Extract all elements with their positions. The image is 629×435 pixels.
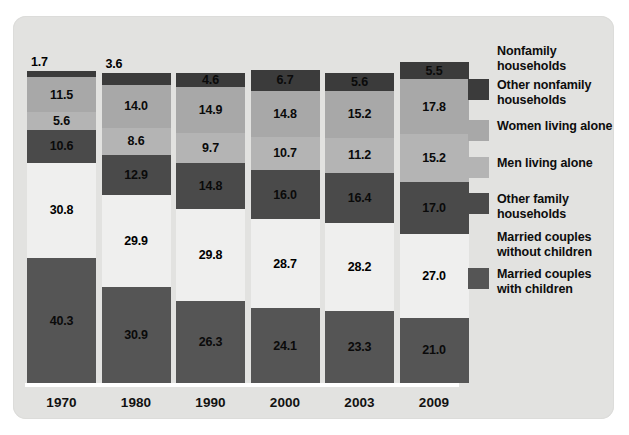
segment-value-label: 16.4 bbox=[325, 192, 394, 205]
bar-segment[interactable]: 23.3 bbox=[325, 311, 394, 383]
segment-value-label: 21.0 bbox=[400, 344, 469, 357]
segment-value-label: 14.0 bbox=[102, 100, 171, 113]
segment-value-label: 5.6 bbox=[27, 115, 96, 128]
bar-segment[interactable]: 29.8 bbox=[176, 209, 245, 301]
bar-segment[interactable]: 21.0 bbox=[400, 318, 469, 383]
bar-segment[interactable]: 29.9 bbox=[102, 195, 171, 288]
bar-segment[interactable]: 17.0 bbox=[400, 182, 469, 235]
chart-legend: Nonfamily householdsOther nonfamily hous… bbox=[468, 16, 614, 419]
segment-value-label: 10.6 bbox=[27, 140, 96, 153]
x-axis-tick-label: 1980 bbox=[102, 395, 171, 410]
segment-value-label: 5.5 bbox=[400, 64, 469, 77]
bar-segment[interactable]: 16.4 bbox=[325, 173, 394, 224]
legend-item[interactable]: Other family households bbox=[468, 192, 614, 222]
legend-item-label: Women living alone bbox=[497, 119, 612, 134]
bar-column[interactable]: 5.615.211.216.428.223.3 bbox=[325, 16, 394, 419]
bar-segment[interactable]: 5.5 bbox=[400, 62, 469, 79]
bar-segment[interactable]: 15.2 bbox=[400, 134, 469, 181]
bar-segment[interactable]: 8.6 bbox=[102, 128, 171, 155]
legend-item[interactable]: Women living alone bbox=[468, 119, 614, 141]
bar-segment[interactable]: 14.8 bbox=[176, 163, 245, 209]
segment-value-label: 26.3 bbox=[176, 336, 245, 349]
bar-stack: 6.714.810.716.028.724.1 bbox=[251, 70, 320, 383]
legend-item-label: Men living alone bbox=[497, 156, 593, 171]
segment-value-label: 6.7 bbox=[251, 74, 320, 87]
bar-column[interactable]: 4.614.99.714.829.826.3 bbox=[176, 16, 245, 419]
segment-value-label: 17.0 bbox=[400, 202, 469, 215]
legend-item-label: Other nonfamily households bbox=[497, 78, 591, 108]
legend-swatch-placeholder bbox=[468, 231, 489, 252]
bar-segment[interactable]: 28.7 bbox=[251, 219, 320, 308]
bar-segment[interactable]: 24.1 bbox=[251, 308, 320, 383]
segment-value-label: 30.8 bbox=[27, 204, 96, 217]
bar-column[interactable]: 1.711.55.610.630.840.3 bbox=[27, 16, 96, 419]
segment-value-label: 40.3 bbox=[27, 314, 96, 327]
segment-value-label: 16.0 bbox=[251, 188, 320, 201]
bar-segment[interactable]: 17.8 bbox=[400, 79, 469, 134]
legend-item[interactable]: Married couples with children bbox=[468, 267, 614, 297]
bar-stack: 3.614.08.612.929.930.9 bbox=[102, 73, 171, 383]
legend-item-label: Nonfamily households bbox=[497, 44, 566, 74]
x-axis-tick-label: 2000 bbox=[251, 395, 320, 410]
bar-segment[interactable]: 10.6 bbox=[27, 130, 96, 163]
segment-value-label: 9.7 bbox=[176, 142, 245, 155]
segment-value-label: 27.0 bbox=[400, 270, 469, 283]
bar-segment[interactable]: 27.0 bbox=[400, 234, 469, 318]
legend-item[interactable]: Nonfamily households bbox=[468, 44, 614, 74]
bar-segment[interactable]: 3.6 bbox=[102, 73, 171, 84]
bar-segment[interactable]: 14.0 bbox=[102, 85, 171, 128]
bar-segment[interactable]: 28.2 bbox=[325, 223, 394, 310]
segment-value-label: 15.2 bbox=[325, 108, 394, 121]
bar-segment[interactable]: 11.5 bbox=[27, 77, 96, 113]
bar-segment[interactable]: 4.6 bbox=[176, 73, 245, 87]
segment-value-label: 10.7 bbox=[251, 147, 320, 160]
x-axis-tick-label: 2009 bbox=[400, 395, 469, 410]
chart-panel: 1.711.55.610.630.840.319703.614.08.612.9… bbox=[13, 16, 614, 419]
legend-swatch-placeholder bbox=[468, 45, 489, 66]
segment-value-label: 17.8 bbox=[400, 101, 469, 114]
segment-value-label: 1.7 bbox=[27, 56, 96, 69]
bar-segment[interactable]: 5.6 bbox=[325, 73, 394, 90]
segment-value-label: 29.9 bbox=[102, 235, 171, 248]
segment-value-label: 30.9 bbox=[102, 329, 171, 342]
segment-value-label: 4.6 bbox=[176, 74, 245, 87]
segment-value-label: 14.9 bbox=[176, 104, 245, 117]
plot-area: 1.711.55.610.630.840.319703.614.08.612.9… bbox=[13, 16, 471, 419]
bar-stack: 5.615.211.216.428.223.3 bbox=[325, 73, 394, 383]
legend-color-swatch bbox=[468, 193, 489, 214]
bar-segment[interactable]: 15.2 bbox=[325, 91, 394, 138]
segment-value-label: 8.6 bbox=[102, 135, 171, 148]
legend-item-label: Other family households bbox=[497, 192, 569, 222]
bar-segment[interactable]: 10.7 bbox=[251, 137, 320, 170]
segment-value-label: 5.6 bbox=[325, 76, 394, 89]
legend-item[interactable]: Other nonfamily households bbox=[468, 78, 614, 108]
bar-stack: 4.614.99.714.829.826.3 bbox=[176, 73, 245, 383]
bar-segment[interactable]: 14.9 bbox=[176, 87, 245, 133]
segment-value-label: 11.5 bbox=[27, 88, 96, 101]
segment-value-label: 28.7 bbox=[251, 258, 320, 271]
bar-segment[interactable]: 30.9 bbox=[102, 287, 171, 383]
segment-value-label: 3.6 bbox=[102, 58, 171, 71]
bar-segment[interactable]: 11.2 bbox=[325, 138, 394, 173]
bar-segment[interactable]: 26.3 bbox=[176, 301, 245, 383]
legend-color-swatch bbox=[468, 268, 489, 289]
bar-segment[interactable]: 9.7 bbox=[176, 133, 245, 163]
bar-segment[interactable]: 14.8 bbox=[251, 91, 320, 137]
legend-color-swatch bbox=[468, 79, 489, 100]
bar-segment[interactable]: 6.7 bbox=[251, 70, 320, 91]
legend-item[interactable]: Men living alone bbox=[468, 156, 614, 178]
bar-segment[interactable]: 40.3 bbox=[27, 258, 96, 383]
bar-stack: 1.711.55.610.630.840.3 bbox=[27, 71, 96, 383]
bar-column[interactable]: 5.517.815.217.027.021.0 bbox=[400, 16, 469, 419]
x-axis-tick-label: 2003 bbox=[325, 395, 394, 410]
legend-item-label: Married couples with children bbox=[497, 267, 591, 297]
bar-segment[interactable]: 5.6 bbox=[27, 112, 96, 129]
bar-column[interactable]: 3.614.08.612.929.930.9 bbox=[102, 16, 171, 419]
segment-value-label: 12.9 bbox=[102, 168, 171, 181]
bar-segment[interactable]: 16.0 bbox=[251, 170, 320, 220]
legend-color-swatch bbox=[468, 157, 489, 178]
bar-segment[interactable]: 30.8 bbox=[27, 163, 96, 258]
bar-column[interactable]: 6.714.810.716.028.724.1 bbox=[251, 16, 320, 419]
bar-segment[interactable]: 12.9 bbox=[102, 155, 171, 195]
legend-item[interactable]: Married couples without children bbox=[468, 230, 614, 260]
